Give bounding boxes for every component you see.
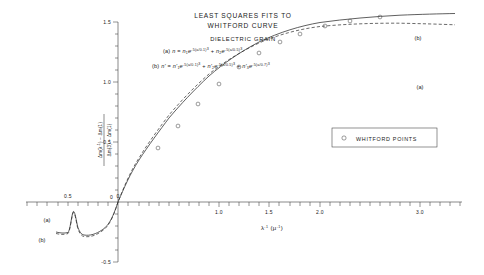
legend: WHITFORD POINTS: [332, 128, 437, 147]
legend-marker-open-circle: [342, 136, 346, 140]
x-tick-label: 2.0: [316, 209, 324, 215]
curve-label-a-inset: (a): [44, 217, 51, 223]
x-axis-minor-ticks: [27, 202, 460, 206]
x-tick-label: 1.5: [265, 209, 273, 215]
x-tick-label: 0: [116, 193, 119, 199]
y-tick-label: 1.0: [103, 79, 111, 85]
x-tick-label: 1.0: [215, 209, 223, 215]
svg-text:(b) n' = n'1e-5(a/0.1)3 + n': (b) n' = n'1e-5(a/0.1)3 + n'2e-5(a/0.5)3…: [152, 62, 270, 71]
y-tick-label: -0.5: [101, 259, 111, 265]
chart-title-line2: WHITFORD CURVE: [208, 22, 279, 29]
x-tick-label: 3.0: [416, 209, 424, 215]
curve-label-b-right: (b): [415, 35, 422, 41]
legend-label: WHITFORD POINTS: [356, 136, 417, 142]
x-tick-label-half: 0.5: [64, 193, 72, 199]
y-tick-label: 0: [110, 194, 113, 200]
x-axis-label: λ-1 (μ-1): [261, 225, 283, 231]
equation-a: (a) n = n1e-5(a/0.1)3 + n2e-5(a/0.5)3: [163, 47, 242, 56]
curve-label-b-inset: (b): [39, 237, 46, 243]
axes: [26, 22, 462, 262]
curve-label-a-right: (a): [417, 84, 424, 90]
svg-text:Δm(λ-1) − Δm(1): Δm(λ-1) − Δm(1): [97, 122, 103, 158]
chart-title-line1: LEAST SQUARES FITS TO: [194, 12, 291, 20]
svg-text:(a) n = n1e-5(a/0.1)3 + n2e-: (a) n = n1e-5(a/0.1)3 + n2e-5(a/0.5)3: [163, 47, 242, 56]
equation-b: (b) n' = n'1e-5(a/0.1)3 + n'2e-5(a/0.5)3…: [152, 62, 270, 71]
y-tick-label: 1.5: [103, 19, 111, 25]
svg-text:Δm(3) − Δm(1): Δm(3) − Δm(1): [107, 123, 112, 156]
figure-extinction-curve: LEAST SQUARES FITS TO WHITFORD CURVE DIE…: [0, 0, 484, 275]
